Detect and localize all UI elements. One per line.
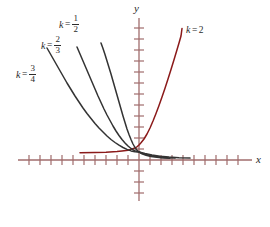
curve-label-value: 2 (199, 25, 204, 35)
curve-k-three-quarters (47, 48, 190, 158)
curve-k-one-half (101, 43, 170, 158)
curve-label-k-two: k = 2 (186, 24, 204, 35)
fraction-denominator: 2 (73, 25, 80, 35)
exponential-functions-graph: y x k = 1 2 k = 2 3 k = 3 4 k = 2 (0, 0, 270, 227)
curve-label-fraction: 1 2 (72, 14, 79, 34)
curve-label-equals: = (47, 40, 52, 50)
fraction-numerator: 3 (30, 64, 37, 74)
curve-label-equals: = (65, 19, 70, 29)
y-axis-label: y (134, 2, 139, 14)
curve-label-fraction: 3 4 (29, 64, 36, 84)
fraction-denominator: 3 (55, 46, 62, 56)
curve-label-equals: = (192, 25, 197, 35)
curve-label-variable: k (16, 69, 20, 80)
curve-label-variable: k (59, 19, 63, 30)
curve-label-variable: k (41, 40, 45, 51)
fraction-numerator: 1 (73, 14, 80, 24)
fraction-denominator: 4 (30, 75, 37, 85)
curve-label-k-three-quarters: k = 3 4 (16, 64, 36, 84)
curve-label-variable: k (186, 24, 190, 35)
curve-label-equals: = (22, 69, 27, 79)
curve-label-k-two-thirds: k = 2 3 (41, 35, 61, 55)
x-axis-label: x (256, 153, 261, 165)
curve-label-fraction: 2 3 (54, 35, 61, 55)
curve-label-k-one-half: k = 1 2 (59, 14, 79, 34)
fraction-numerator: 2 (55, 35, 62, 45)
